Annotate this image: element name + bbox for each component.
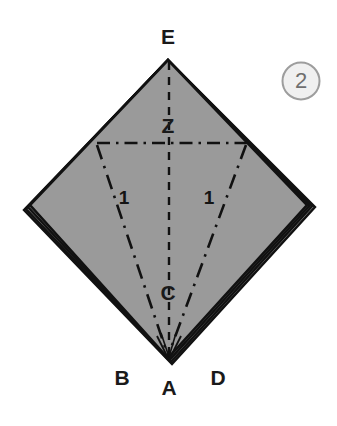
vertex-label-b: B: [114, 366, 129, 389]
crease-label-right-one: 1: [204, 187, 215, 208]
vertex-label-d: D: [210, 366, 225, 389]
paper-layer-front: [30, 60, 307, 358]
vertex-label-c: C: [160, 281, 175, 304]
vertex-label-z: Z: [162, 114, 175, 137]
step-number-badge: 2: [283, 63, 320, 100]
step-badge-label: 2: [295, 68, 307, 93]
crease-label-left-one: 1: [119, 187, 130, 208]
vertex-label-e: E: [161, 25, 175, 48]
origami-diagram-figure: E Z C B A D 1 1 2: [0, 0, 337, 426]
vertex-label-a: A: [161, 376, 176, 399]
origami-diagram-svg: E Z C B A D 1 1 2: [0, 0, 337, 426]
